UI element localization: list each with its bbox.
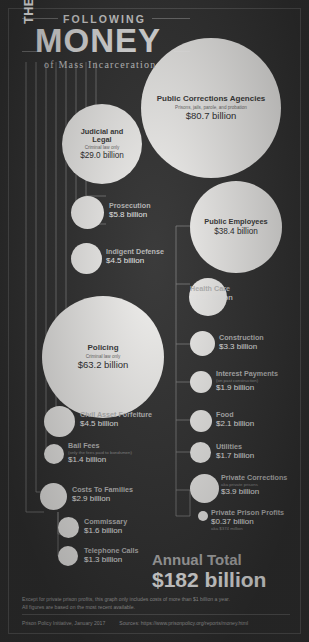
bubble-policing[interactable]: Policing Criminal law only $63.2 billion: [42, 296, 164, 418]
bubble-label-name: Policing: [87, 344, 118, 353]
label-amount: $0.37 billion: [211, 517, 309, 526]
label-name: Food: [216, 411, 309, 419]
subtitle-rule-right: [174, 51, 190, 52]
bubble-bail-fees[interactable]: [44, 444, 64, 464]
footer-source[interactable]: Sources: https://www.prisonpolicy.org/re…: [119, 620, 248, 626]
annual-total-label: Annual Total: [152, 552, 266, 568]
bubble-label-note: Criminal law only: [86, 354, 121, 359]
label-prosecution[interactable]: Prosecution $5.8 billion: [109, 202, 209, 219]
bubble-commissary[interactable]: [58, 517, 79, 538]
bubble-label-name: Judicial and Legal: [74, 128, 130, 144]
bubble-label-amount: $63.2 billion: [78, 360, 129, 370]
bubble-telephone-calls[interactable]: [58, 546, 78, 566]
footnote-line-2: All figures are based on the most recent…: [22, 604, 290, 612]
footnote-line-1: Except for private prison profits, this …: [22, 596, 290, 604]
title-subtitle: of Mass Incarceration: [44, 59, 156, 70]
infographic-poster: FOLLOWING THE MONEY of Mass Incarceratio…: [0, 0, 309, 642]
bubble-label-amount: $80.7 billion: [186, 111, 237, 121]
title-money: MONEY: [35, 24, 161, 57]
title-the: THE: [22, 0, 36, 24]
footnote: Except for private prison profits, this …: [22, 596, 290, 612]
label-name: Construction: [219, 334, 309, 342]
label-name: Commissary: [84, 518, 204, 526]
bubble-civil-asset-forfeiture[interactable]: [44, 406, 75, 437]
label-civil-asset-forfeiture[interactable]: Civil Asset Forfeiture $4.5 billion: [80, 411, 200, 428]
label-private-prison-profits[interactable]: Private Prison Profits $0.37 billion aka…: [211, 509, 309, 531]
label-name: Utilities: [216, 443, 309, 451]
bubble-utilities[interactable]: [190, 442, 211, 463]
label-commissary[interactable]: Commissary $1.6 billion: [84, 518, 204, 535]
label-indigent-defense[interactable]: Indigent Defense $4.5 billion: [106, 248, 216, 265]
label-name: Civil Asset Forfeiture: [80, 411, 200, 419]
label-amount: $1.7 billion: [216, 451, 309, 460]
label-food[interactable]: Food $2.1 billion: [216, 411, 309, 428]
bubble-label-name: Public Employees: [204, 218, 267, 226]
label-amount: $5.8 billion: [109, 210, 209, 219]
label-bail-fees[interactable]: Bail Fees (only the fees paid to bondsme…: [68, 442, 188, 464]
label-amount: $1.4 billion: [68, 455, 188, 464]
label-private-corrections[interactable]: Private Corrections aka private prisons …: [221, 474, 309, 496]
label-name: Interest Payments: [216, 370, 309, 378]
bubble-prosecution[interactable]: [71, 196, 104, 229]
label-name: Private Corrections: [221, 474, 309, 482]
bubble-construction[interactable]: [190, 331, 215, 356]
bubble-label-note: Prisons, jails, parole, and probation: [175, 105, 247, 110]
footer-source-row: Prison Policy Initiative, January 2017 S…: [22, 620, 290, 626]
label-amount: $2.9 billion: [72, 494, 192, 503]
bubble-indigent-defense[interactable]: [71, 243, 102, 274]
label-amount: $1.9 billion: [216, 383, 309, 392]
title-rule-left: [22, 18, 58, 19]
label-amount: $2.1 billion: [216, 419, 309, 428]
label-name: Indigent Defense: [106, 248, 216, 256]
label-amount: $4.5 billion: [106, 256, 216, 265]
annual-total-value: $182 billion: [152, 568, 266, 591]
label-amount: $3.3 billion: [219, 342, 309, 351]
label-amount: $1.6 billion: [84, 526, 204, 535]
label-name: Prosecution: [109, 202, 209, 210]
label-amount: $4.5 billion: [80, 419, 200, 428]
bubble-label-amount: $29.0 billion: [80, 151, 124, 160]
bubble-judicial-and-legal[interactable]: Judicial and Legal Criminal law only $29…: [62, 104, 142, 184]
label-name: Health Care: [190, 285, 290, 293]
label-amount: $12.3 billion: [190, 293, 290, 302]
label-interest-payments[interactable]: Interest Payments (on past construction)…: [216, 370, 309, 392]
label-name: Bail Fees: [68, 442, 188, 450]
footer-divider: [22, 614, 290, 615]
bubble-label-amount: $38.4 billion: [214, 227, 258, 236]
annual-total: Annual Total $182 billion: [152, 552, 266, 591]
footer-credit: Prison Policy Initiative, January 2017: [22, 620, 105, 626]
label-amount: $3.9 billion: [221, 487, 309, 496]
label-name: Private Prison Profits: [211, 509, 309, 517]
subtitle-rule-left: [22, 51, 38, 52]
label-construction[interactable]: Construction $3.3 billion: [219, 334, 309, 351]
title-block: FOLLOWING THE MONEY of Mass Incarceratio…: [22, 13, 192, 75]
label-note: aka $374 million: [211, 526, 309, 531]
bubble-interest-payments[interactable]: [190, 371, 212, 393]
title-rule-right: [152, 18, 190, 19]
bubble-costs-to-families[interactable]: [40, 483, 67, 510]
label-utilities[interactable]: Utilities $1.7 billion: [216, 443, 309, 460]
label-health-care[interactable]: Health Care $12.3 billion: [190, 285, 290, 302]
bubble-label-note: Criminal law only: [85, 145, 120, 150]
bubble-private-corrections[interactable]: [190, 474, 219, 503]
label-costs-to-families[interactable]: Costs To Families $2.9 billion: [72, 486, 192, 503]
label-name: Costs To Families: [72, 486, 192, 494]
bubble-label-name: Public Corrections Agencies: [157, 95, 266, 104]
